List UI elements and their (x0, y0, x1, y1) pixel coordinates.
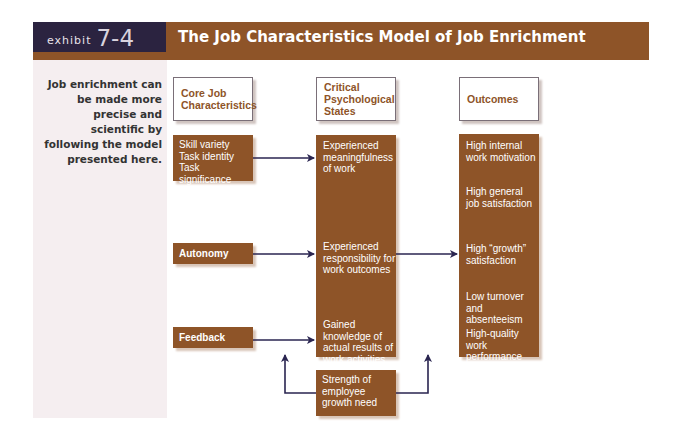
arrow-moderator-left (285, 355, 316, 393)
arrow-moderator-right (396, 355, 428, 393)
arrows-layer (0, 0, 684, 446)
